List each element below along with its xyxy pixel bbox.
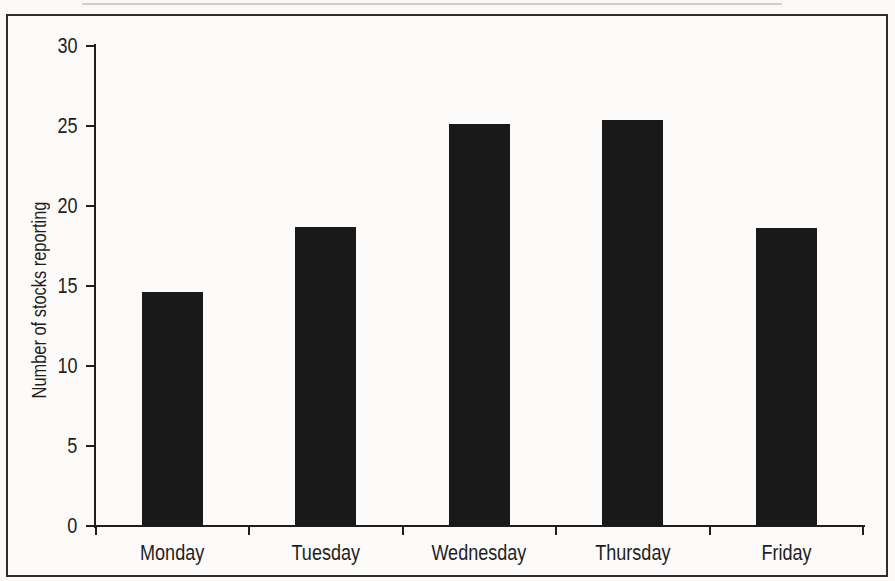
- y-tick-label-text: 25: [57, 113, 77, 139]
- y-tick-label-text: 15: [57, 273, 77, 299]
- x-tick: [95, 526, 97, 535]
- x-tick-label: Monday: [97, 541, 247, 565]
- bar-monday: [142, 292, 203, 526]
- y-tick-label-text: 30: [57, 33, 77, 59]
- x-tick-label: Tuesday: [251, 541, 401, 565]
- x-tick-label-text: Wednesday: [432, 541, 527, 565]
- y-tick: [86, 445, 95, 447]
- bar-friday: [756, 228, 817, 526]
- y-tick-label-text: 0: [67, 513, 77, 539]
- y-tick-label: 15: [31, 273, 77, 299]
- y-tick-label: 10: [31, 353, 77, 379]
- x-tick-label: Thursday: [558, 541, 708, 565]
- x-tick: [248, 526, 250, 535]
- y-tick: [86, 125, 95, 127]
- x-tick-label: Friday: [711, 541, 861, 565]
- y-tick-label-text: 20: [57, 193, 77, 219]
- y-tick: [86, 205, 95, 207]
- y-tick-label: 30: [31, 33, 77, 59]
- bar-tuesday: [295, 227, 356, 526]
- y-tick: [86, 45, 95, 47]
- x-tick-label: Wednesday: [404, 541, 554, 565]
- x-tick-label-text: Monday: [140, 541, 204, 565]
- y-tick: [86, 285, 95, 287]
- x-tick-label-text: Thursday: [595, 541, 670, 565]
- y-tick-label: 25: [31, 113, 77, 139]
- x-tick: [402, 526, 404, 535]
- y-tick: [86, 365, 95, 367]
- bar-wednesday: [449, 124, 510, 526]
- x-tick: [862, 526, 864, 535]
- x-tick: [709, 526, 711, 535]
- x-tick-label-text: Tuesday: [291, 541, 360, 565]
- scanned-page: Number of stocks reporting 051015202530M…: [0, 0, 895, 581]
- y-tick-label-text: 10: [57, 353, 77, 379]
- y-tick-label-text: 5: [67, 433, 77, 459]
- bar-thursday: [602, 120, 663, 526]
- y-tick-label: 0: [31, 513, 77, 539]
- chart-plot: Number of stocks reporting 051015202530M…: [0, 0, 895, 581]
- y-tick-label: 5: [31, 433, 77, 459]
- y-tick-label: 20: [31, 193, 77, 219]
- x-tick: [555, 526, 557, 535]
- x-tick-label-text: Friday: [761, 541, 811, 565]
